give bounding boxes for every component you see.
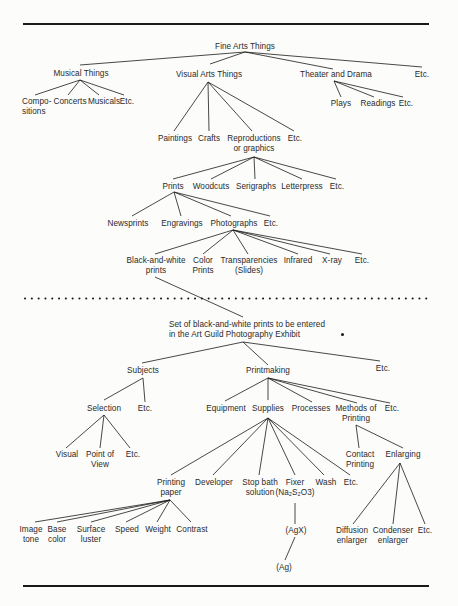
node-paintings: Paintings xyxy=(158,134,192,144)
label-line-2: enlarger xyxy=(373,536,414,546)
node-image-tone: Image tone xyxy=(19,525,42,544)
node-concerts: Concerts xyxy=(53,97,86,107)
node-musical-things: Musical Things xyxy=(53,69,108,79)
node-agx: (AgX) xyxy=(285,526,306,536)
node-etc-supplies: Etc. xyxy=(344,478,358,488)
node-black-and-white-prints: Black-and-white prints xyxy=(127,256,186,275)
node-subjects: Subjects xyxy=(127,366,159,376)
node-letterpress: Letterpress xyxy=(281,182,323,192)
node-etc-visual: Etc. xyxy=(288,134,302,144)
node-etc-printmaking: Etc. xyxy=(385,404,399,414)
label-line-1: Fixer xyxy=(275,478,314,488)
label-line-2: enlarger xyxy=(336,536,368,546)
label-line-2: Printing xyxy=(346,460,375,470)
label-line-1: Diffusion xyxy=(336,526,368,536)
label-line-1: Transparencies xyxy=(221,256,278,266)
node-etc-enlarging: Etc. xyxy=(418,526,432,536)
label-line-1: Set of black-and-white prints to be ente… xyxy=(169,320,325,330)
label-line-2: (Slides) xyxy=(221,266,278,276)
label-line-1: Base xyxy=(48,525,67,535)
node-etc-selection: Etc. xyxy=(126,450,140,460)
label-line-2: in the Art Guild Photography Exhibit xyxy=(169,330,325,340)
node-etc-fine-arts: Etc. xyxy=(415,70,429,80)
node-exhibit-prints: Set of black-and-white prints to be ente… xyxy=(169,320,325,339)
node-infrared: Infrared xyxy=(284,256,313,266)
label-line-1: Surface xyxy=(77,525,106,535)
node-musicals: Musicals xyxy=(88,97,120,107)
label-line-1: Compo- xyxy=(22,97,51,107)
node-wash: Wash xyxy=(316,478,337,488)
node-diffusion-enlarger: Diffusion enlarger xyxy=(336,526,368,545)
label-line-1: Methods of xyxy=(335,404,376,414)
node-fine-arts-things: Fine Arts Things xyxy=(215,42,275,52)
node-crafts: Crafts xyxy=(198,134,220,144)
label-line-2: color xyxy=(48,535,67,545)
label-line-2: Prints xyxy=(192,266,213,276)
label-line-1: Reproductions xyxy=(227,134,280,144)
node-x-ray: X-ray xyxy=(322,256,342,266)
label-line-1: Printing xyxy=(157,478,185,488)
node-etc-theater: Etc. xyxy=(399,99,413,109)
node-contrast: Contrast xyxy=(176,525,207,535)
node-base-color: Base color xyxy=(48,525,67,544)
node-serigraphs: Serigraphs xyxy=(236,182,276,192)
node-engravings: Engravings xyxy=(161,219,202,229)
node-reproductions: Reproductions or graphics xyxy=(227,134,280,153)
node-surface-luster: Surface luster xyxy=(77,525,106,544)
node-etc-prints: Etc. xyxy=(264,219,278,229)
node-visual-arts-things: Visual Arts Things xyxy=(176,70,242,80)
node-etc-subjects: Etc. xyxy=(138,404,152,414)
node-methods-of-printing: Methods of Printing xyxy=(335,404,376,423)
node-enlarging: Enlarging xyxy=(385,450,420,460)
node-selection: Selection xyxy=(87,404,121,414)
node-visual: Visual xyxy=(56,450,78,460)
node-developer: Developer xyxy=(195,478,233,488)
node-compositions: Compo- sitions xyxy=(22,97,51,116)
node-printing-paper: Printing paper xyxy=(157,478,185,497)
node-condenser-enlarger: Condenser enlarger xyxy=(373,526,414,545)
node-contact-printing: Contact Printing xyxy=(346,450,375,469)
label-line-2: tone xyxy=(19,535,42,545)
label-line-2: sitions xyxy=(22,107,51,117)
label-line-2: (Na₂S₂O3) xyxy=(275,488,314,498)
label-line-1: Color xyxy=(192,256,213,266)
node-prints: Prints xyxy=(162,182,183,192)
label-line-2: paper xyxy=(157,488,185,498)
label-line-2: prints xyxy=(127,266,186,276)
node-transparencies: Transparencies (Slides) xyxy=(221,256,278,275)
label-line-1: Stop bath xyxy=(242,478,278,488)
node-stop-bath-solution: Stop bath solution xyxy=(242,478,278,497)
node-speed: Speed xyxy=(115,525,139,535)
node-newsprints: Newsprints xyxy=(108,219,149,229)
node-point-of-view: Point of View xyxy=(86,450,114,469)
node-plays: Plays xyxy=(331,99,351,109)
label-line-2: Printing xyxy=(335,414,376,424)
node-etc-musical: Etc. xyxy=(120,97,134,107)
label-line-2: solution xyxy=(242,488,278,498)
node-processes: Processes xyxy=(292,404,331,414)
label-line-1: Point of xyxy=(86,450,114,460)
label-line-2: luster xyxy=(77,535,106,545)
node-fixer: Fixer (Na₂S₂O3) xyxy=(275,478,314,497)
node-color-prints: Color Prints xyxy=(192,256,213,275)
node-etc-photographs: Etc. xyxy=(355,256,369,266)
label-line-1: Black-and-white xyxy=(127,256,186,266)
label-line-2: View xyxy=(86,460,114,470)
label-line-1: Condenser xyxy=(373,526,414,536)
node-supplies: Supplies xyxy=(252,404,284,414)
node-readings: Readings xyxy=(361,99,396,109)
node-theater-and-drama: Theater and Drama xyxy=(300,70,372,80)
node-woodcuts: Woodcuts xyxy=(193,182,230,192)
connector-lines xyxy=(0,0,458,606)
label-line-1: Contact xyxy=(346,450,375,460)
label-line-2: or graphics xyxy=(227,144,280,154)
label-line-1: Image xyxy=(19,525,42,535)
node-weight: Weight xyxy=(145,525,171,535)
hierarchy-diagram: Fine Arts Things Musical Things Visual A… xyxy=(0,0,458,606)
node-equipment: Equipment xyxy=(206,404,246,414)
node-etc-reproductions: Etc. xyxy=(330,182,344,192)
node-ag: (Ag) xyxy=(276,563,292,573)
node-printmaking: Printmaking xyxy=(246,366,290,376)
node-photographs: Photographs xyxy=(211,219,258,229)
node-etc-exhibit: Etc. xyxy=(376,364,390,374)
